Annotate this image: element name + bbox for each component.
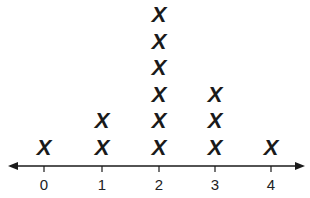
tick-label: 3 (211, 176, 219, 193)
x-mark: X (150, 135, 168, 160)
x-mark: X (150, 29, 168, 54)
tick-labels: 01234 (40, 176, 275, 193)
x-mark: X (206, 82, 224, 107)
tick-label: 2 (155, 176, 163, 193)
x-mark: X (262, 135, 280, 160)
x-mark: X (206, 135, 224, 160)
tick-label: 1 (98, 176, 106, 193)
left-arrow-icon (8, 162, 18, 170)
line-plot: 01234 XXXXXXXXXXXXX (0, 0, 310, 198)
tick-label: 0 (40, 176, 48, 193)
x-mark: X (150, 82, 168, 107)
x-mark: X (150, 55, 168, 80)
x-mark: X (35, 135, 53, 160)
tick-label: 4 (267, 176, 275, 193)
x-mark: X (206, 108, 224, 133)
right-arrow-icon (295, 162, 305, 170)
x-mark: X (93, 108, 111, 133)
tick-marks (44, 166, 271, 172)
x-marks: XXXXXXXXXXXXX (35, 2, 280, 160)
x-mark: X (150, 2, 168, 27)
x-mark: X (150, 108, 168, 133)
number-line (8, 162, 305, 170)
x-mark: X (93, 135, 111, 160)
